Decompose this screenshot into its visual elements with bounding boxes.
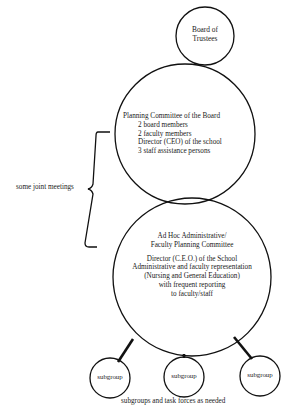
planning-member: 3 staff assistance persons (123, 147, 263, 156)
board-label-line2: Trustees (175, 34, 235, 43)
joint-meetings-label: some joint meetings (16, 183, 74, 192)
adhoc-detail: with frequent reporting (112, 281, 272, 290)
board-label-line1: Board of (175, 25, 235, 34)
subgroup-label-middle: subgroup (164, 372, 204, 380)
adhoc-detail: (Nursing and General Education) (112, 272, 272, 281)
adhoc-committee-text: Ad Hoc Administrative/ Faculty Planning … (112, 232, 272, 298)
subgroup-label-left: subgroup (90, 373, 130, 381)
adhoc-title-line2: Faculty Planning Committee (112, 241, 272, 250)
adhoc-title-line1: Ad Hoc Administrative/ (112, 232, 272, 241)
planning-member: Director (CEO) of the school (123, 138, 263, 147)
subgroups-caption: subgroups and task forces as needed (121, 397, 225, 406)
planning-member: 2 faculty members (123, 130, 263, 139)
adhoc-detail: Director (C.E.O.) of the School (112, 255, 272, 264)
adhoc-detail: to faculty/staff (112, 290, 272, 299)
connector-line-right (234, 337, 252, 359)
joint-meetings-brace (85, 132, 110, 247)
board-label: Board of Trustees (175, 25, 235, 43)
adhoc-detail: Administrative and faculty representatio… (112, 263, 272, 272)
subgroup-label-right: subgroup (240, 371, 280, 379)
planning-committee-title: Planning Committee of the Board (123, 112, 263, 121)
connector-line-left (118, 339, 133, 362)
planning-committee-text: Planning Committee of the Board 2 board … (123, 112, 263, 156)
diagram-canvas (0, 0, 297, 418)
planning-member: 2 board members (123, 121, 263, 130)
